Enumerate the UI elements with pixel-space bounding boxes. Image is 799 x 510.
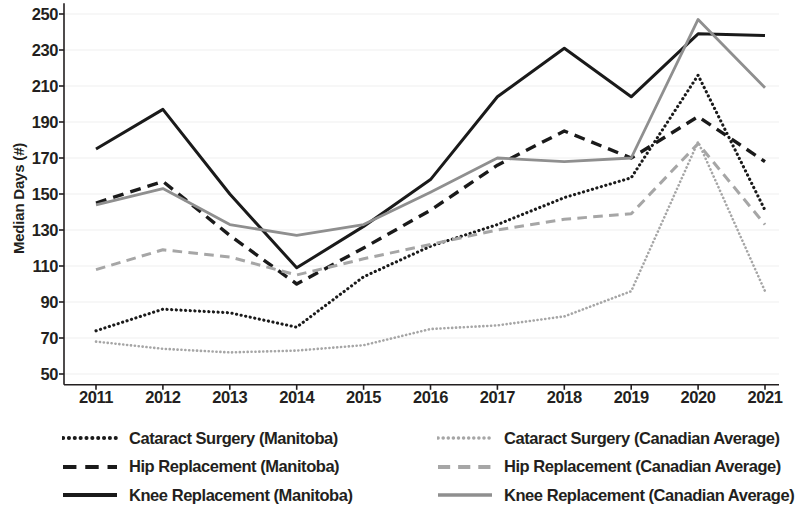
legend-line-swatch-icon [437, 486, 493, 504]
series-line-2 [96, 34, 765, 268]
legend-item-label: Knee Replacement (Canadian Average) [504, 486, 794, 505]
legend-item-label: Hip Replacement (Manitoba) [129, 457, 339, 476]
chart-legend: Cataract Surgery (Manitoba)Hip Replaceme… [0, 424, 784, 510]
legend-line-swatch-icon [62, 458, 118, 476]
x-tick-label: 2017 [467, 388, 527, 407]
series-line-1 [96, 117, 765, 284]
x-tick-label: 2015 [334, 388, 394, 407]
legend-line-swatch-icon [62, 486, 118, 504]
x-tick-label: 2012 [133, 388, 193, 407]
legend-column-canadian-average: Cataract Surgery (Canadian Average)Hip R… [437, 424, 799, 510]
legend-item[interactable]: Cataract Surgery (Manitoba) [62, 424, 454, 453]
x-tick-label: 2018 [534, 388, 594, 407]
legend-item[interactable]: Cataract Surgery (Canadian Average) [437, 424, 799, 453]
legend-line-swatch-icon [437, 458, 493, 476]
legend-line-swatch-icon [62, 429, 118, 447]
legend-item[interactable]: Knee Replacement (Canadian Average) [437, 481, 799, 510]
legend-item[interactable]: Hip Replacement (Manitoba) [62, 453, 454, 482]
legend-item-label: Cataract Surgery (Canadian Average) [504, 429, 780, 448]
x-tick-label: 2019 [601, 388, 661, 407]
legend-item-label: Cataract Surgery (Manitoba) [129, 429, 338, 448]
x-tick-label: 2016 [401, 388, 461, 407]
x-tick-label: 2014 [267, 388, 327, 407]
legend-item[interactable]: Hip Replacement (Canadian Average) [437, 453, 799, 482]
x-tick-label: 2020 [668, 388, 728, 407]
legend-item-label: Hip Replacement (Canadian Average) [504, 457, 781, 476]
series-line-0 [96, 75, 765, 331]
legend-item[interactable]: Knee Replacement (Manitoba) [62, 481, 454, 510]
x-tick-label: 2021 [735, 388, 795, 407]
x-tick-label: 2011 [66, 388, 126, 407]
legend-column-manitoba: Cataract Surgery (Manitoba)Hip Replaceme… [62, 424, 454, 510]
legend-item-label: Knee Replacement (Manitoba) [129, 486, 352, 505]
x-tick-label: 2013 [200, 388, 260, 407]
legend-line-swatch-icon [437, 429, 493, 447]
